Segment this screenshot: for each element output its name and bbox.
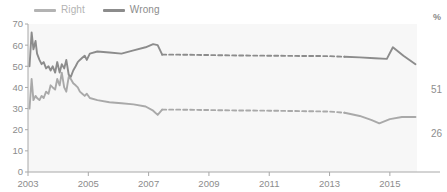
legend-swatch-right	[34, 9, 56, 12]
line-chart: Right Wrong % 51 26 010203040506070 2003…	[0, 0, 447, 192]
x-tick-label: 2005	[78, 178, 99, 189]
legend-item-wrong[interactable]: Wrong	[103, 5, 160, 15]
x-tick-label: 2003	[17, 178, 38, 189]
legend-item-right[interactable]: Right	[34, 5, 85, 15]
legend-label-right: Right	[61, 5, 85, 15]
x-tick-label: 2007	[138, 178, 159, 189]
y-axis-ticks: 010203040506070	[12, 18, 28, 177]
chart-legend: Right Wrong	[34, 2, 160, 18]
y-tick-label: 20	[12, 124, 23, 135]
end-value-right: 26	[431, 128, 442, 139]
x-tick-label: 2011	[259, 178, 279, 189]
plot-area: 010203040506070 200320052007200920112013…	[0, 0, 447, 192]
unit-label: %	[433, 12, 441, 22]
end-value-wrong: 51	[431, 84, 442, 95]
plot-background	[28, 24, 417, 172]
legend-swatch-wrong	[103, 9, 125, 12]
y-tick-label: 60	[12, 40, 23, 51]
y-tick-label: 50	[12, 61, 23, 72]
y-tick-label: 40	[12, 82, 23, 93]
x-tick-label: 2013	[319, 178, 340, 189]
x-tick-label: 2015	[379, 178, 400, 189]
y-tick-label: 70	[12, 18, 23, 29]
legend-label-wrong: Wrong	[130, 5, 160, 15]
x-axis-ticks: 2003200520072009201120132015	[17, 172, 400, 189]
x-tick-label: 2009	[198, 178, 219, 189]
y-tick-label: 10	[12, 145, 23, 156]
y-tick-label: 0	[18, 166, 23, 177]
y-tick-label: 30	[12, 103, 23, 114]
